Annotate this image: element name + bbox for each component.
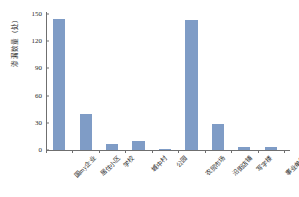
y-tick-label: 60 (35, 92, 46, 100)
bar (238, 147, 250, 150)
bar-chart: 渗漏数量（处） 0306090120150 国my企业居住小区学校城中村公园农贸… (0, 0, 299, 197)
x-axis-labels: 国my企业居住小区学校城中村公园农贸市场沿街店铺写字楼事业单位 (46, 151, 290, 197)
x-tick-label: 居住小区 (98, 154, 122, 178)
x-tick-label: 学校 (121, 154, 136, 169)
bar (265, 147, 277, 150)
x-tick-label: 写字楼 (255, 154, 275, 174)
bar (80, 114, 92, 150)
x-tick-label: 沿街店铺 (230, 154, 254, 178)
y-tick-label: 90 (35, 64, 46, 72)
x-tick-label: 国my企业 (72, 154, 98, 180)
bar-series (46, 14, 284, 150)
bar (159, 149, 171, 150)
plot-area: 0306090120150 (46, 14, 284, 150)
bar (106, 144, 118, 150)
bar (185, 20, 197, 150)
bar (132, 141, 144, 150)
y-tick-label: 0 (39, 146, 47, 154)
x-tick-label: 公园 (174, 154, 189, 169)
y-tick-label: 30 (35, 119, 46, 127)
x-tick-label: 城中村 (149, 154, 169, 174)
x-tick-label: 农贸市场 (204, 154, 228, 178)
bar (53, 19, 65, 150)
y-axis-title: 渗漏数量（处） (9, 0, 19, 93)
x-tick-label: 事业单位 (283, 154, 299, 178)
bar (212, 124, 224, 150)
y-tick-label: 120 (32, 37, 47, 45)
y-tick-label: 150 (32, 10, 47, 18)
